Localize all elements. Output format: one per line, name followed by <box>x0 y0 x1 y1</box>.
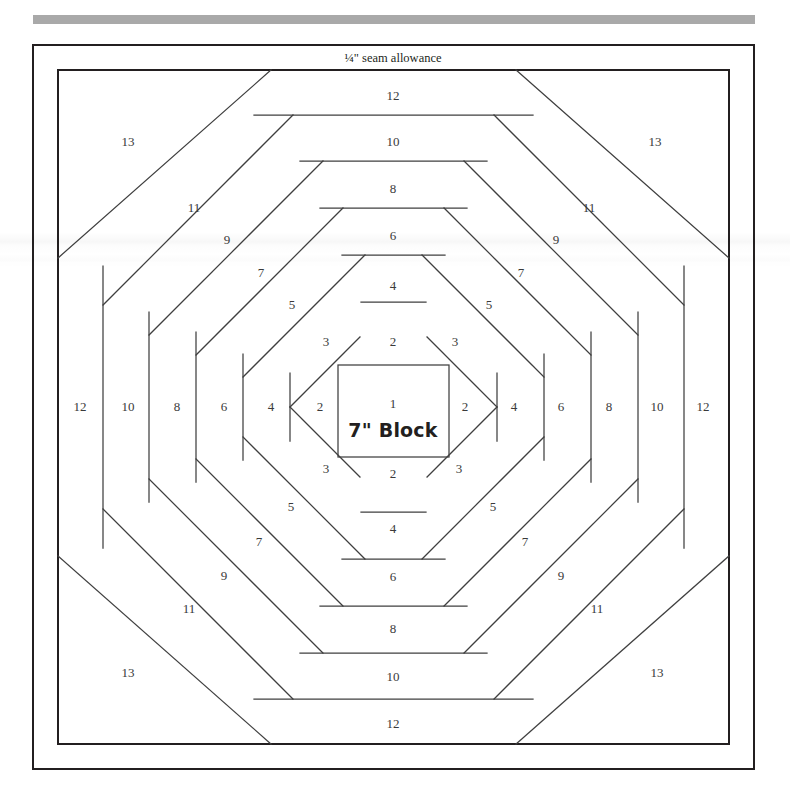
piece-label-corner-log-bottom-right-13: 13 <box>651 666 664 679</box>
piece-label-bottom-log-8: 8 <box>390 622 397 635</box>
piece-label-bottom-log-12: 12 <box>387 717 400 730</box>
piece-label-left-log-8: 8 <box>174 400 181 413</box>
corner-cut-13-bl <box>58 556 271 744</box>
piece-label-corner-log-bottom-left-7: 7 <box>256 535 263 548</box>
piece-label-corner-log-top-right-13: 13 <box>649 135 662 148</box>
piece-label-right-log-4: 4 <box>511 400 518 413</box>
piece-label-top-log-12: 12 <box>387 89 400 102</box>
corner-cut-13-tr <box>516 70 729 258</box>
piece-label-left-log-2: 2 <box>317 400 324 413</box>
piece-label-corner-log-top-right-3: 3 <box>452 335 459 348</box>
piece-label-right-log-12: 12 <box>697 400 710 413</box>
piece-label-corner-log-top-right-9: 9 <box>553 233 560 246</box>
piece-label-corner-log-top-left-7: 7 <box>258 266 265 279</box>
piece-label-corner-log-top-left-13: 13 <box>122 135 135 148</box>
piece-label-corner-log-top-left-3: 3 <box>323 335 330 348</box>
corner-cut-5-tr <box>422 255 544 377</box>
corner-cut-7-br <box>444 459 591 606</box>
piece-label-corner-log-top-left-5: 5 <box>289 298 296 311</box>
piece-label-corner-log-top-right-7: 7 <box>518 266 525 279</box>
quilt-block-diagram: ¼" seam allowance12108642121086421210864… <box>31 43 756 771</box>
corner-cut-9-tl <box>149 161 323 335</box>
corner-cut-13-tl <box>58 70 271 258</box>
corner-cut-13-br <box>516 556 729 744</box>
piece-label-top-log-10: 10 <box>387 135 400 148</box>
piece-label-right-log-8: 8 <box>606 400 613 413</box>
corner-cut-9-bl <box>149 479 323 653</box>
page-header-rule <box>33 15 755 24</box>
piece-label-corner-log-bottom-left-9: 9 <box>221 569 228 582</box>
piece-label-right-log-6: 6 <box>558 400 565 413</box>
piece-label-corner-log-bottom-left-3: 3 <box>323 462 330 475</box>
piece-label-top-log-8: 8 <box>390 182 397 195</box>
piece-label-top-log-4: 4 <box>390 279 397 292</box>
piece-label-bottom-log-2: 2 <box>390 467 397 480</box>
piece-label-bottom-log-6: 6 <box>390 570 397 583</box>
piece-label-left-log-10: 10 <box>122 400 135 413</box>
piece-label-corner-log-bottom-right-11: 11 <box>591 602 604 615</box>
piece-label-corner-log-bottom-right-9: 9 <box>558 569 565 582</box>
piece-label-corner-log-bottom-right-7: 7 <box>522 535 529 548</box>
piece-label-left-log-6: 6 <box>221 400 228 413</box>
piece-label-top-log-6: 6 <box>390 229 397 242</box>
piece-label-corner-log-top-left-11: 11 <box>188 201 201 214</box>
corner-cut-7-bl <box>196 459 343 606</box>
piece-label-corner-log-bottom-right-3: 3 <box>456 462 463 475</box>
corner-cut-7-tr <box>444 208 591 355</box>
piece-label-left-log-12: 12 <box>74 400 87 413</box>
piece-label-top-log-2: 2 <box>390 335 397 348</box>
piece-label-right-log-2: 2 <box>462 400 469 413</box>
piece-label-corner-log-bottom-left-13: 13 <box>122 666 135 679</box>
piece-label-bottom-log-10: 10 <box>387 670 400 683</box>
piece-label-center-number-1: 1 <box>390 397 397 410</box>
piece-label-left-log-4: 4 <box>268 400 275 413</box>
piece-label-corner-log-top-left-9: 9 <box>224 233 231 246</box>
corner-cut-7-tl <box>196 208 343 355</box>
corner-cut-3-tr <box>427 337 497 407</box>
piece-label-center-caption-7-Block: 7" Block <box>348 421 437 440</box>
piece-label-right-log-10: 10 <box>651 400 664 413</box>
piece-label-bottom-log-4: 4 <box>390 522 397 535</box>
center-square-piece-1 <box>338 365 449 457</box>
piece-label-corner-log-bottom-left-11: 11 <box>183 602 196 615</box>
piece-label-corner-log-bottom-left-5: 5 <box>288 500 295 513</box>
page-canvas: ¼" seam allowance12108642121086421210864… <box>0 0 790 802</box>
piece-label-corner-log-bottom-right-5: 5 <box>490 500 497 513</box>
piece-label-corner-log-top-right-11: 11 <box>583 201 596 214</box>
piece-label-border-note-seam-allowance: ¼" seam allowance <box>344 52 441 65</box>
piece-label-corner-log-top-right-5: 5 <box>486 298 493 311</box>
